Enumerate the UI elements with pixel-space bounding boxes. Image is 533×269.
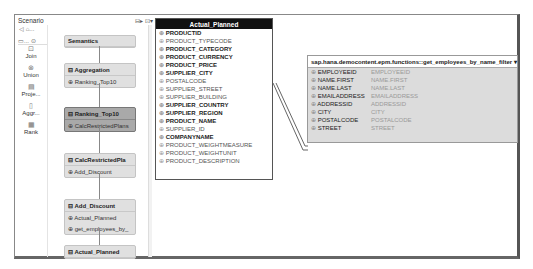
- node-4[interactable]: ⊟ Add_Discount⊕ Actual_Planned⊕ get_empl…: [64, 199, 136, 235]
- table-title: Actual_Planned: [156, 19, 272, 29]
- function-column[interactable]: POSTALCODEPOSTALCODE: [308, 116, 517, 124]
- table-column[interactable]: SUPPLIER_CITY: [156, 69, 272, 77]
- connector: [99, 228, 100, 245]
- function-column[interactable]: EMAILADDRESSEMAILADDRESS: [308, 92, 517, 100]
- node-3[interactable]: ⊟ CalcRestrictedPla⊕ Add_Discount: [64, 153, 136, 178]
- node-palette: ⊡Join⊗Union▤Proje...▯Aggr...▦Rank: [15, 45, 47, 140]
- palette-union[interactable]: ⊗Union: [15, 64, 47, 78]
- table-column[interactable]: PRODUCT_TYPECODE: [156, 37, 272, 45]
- table-column[interactable]: PRODUCT_CURRENCY: [156, 53, 272, 61]
- connector: [99, 173, 100, 199]
- node-input: ⊕ get_employees_by_: [65, 223, 135, 234]
- palette-icon: ▤: [15, 83, 47, 91]
- node-5[interactable]: ⊟ Actual_Planned: [64, 245, 136, 259]
- table-column[interactable]: SUPPLIER_STREET: [156, 85, 272, 93]
- node-input: ⊕ CalcRestrictedPlans: [65, 120, 135, 131]
- palette-aggr[interactable]: ▯Aggr...: [15, 102, 47, 116]
- node-title: ⊟ Aggregation: [65, 64, 135, 76]
- scenario-toolbar-icons[interactable]: ⊟▸ ⊡▾: [135, 17, 153, 24]
- scenario-title: Scenario: [18, 17, 44, 24]
- function-title: sap.hana.democontent.epm.functions::get_…: [308, 56, 517, 68]
- actual-planned-table[interactable]: Actual_Planned PRODUCTIDPRODUCT_TYPECODE…: [155, 18, 273, 180]
- connector: [99, 83, 100, 107]
- node-title: ⊟ Ranking_Top10: [65, 108, 135, 120]
- scenario-nav[interactable]: ◁ ⌂...: [19, 25, 34, 32]
- node-0[interactable]: Semantics: [64, 35, 136, 48]
- node-1[interactable]: ⊟ Aggregation⊕ Ranking_Top10: [64, 63, 136, 88]
- palette-rank[interactable]: ▦Rank: [15, 121, 47, 135]
- connector: [99, 127, 100, 153]
- table-column[interactable]: COMPANYNAME: [156, 133, 272, 141]
- node-title: Semantics: [65, 36, 135, 47]
- node-2[interactable]: ⊟ Ranking_Top10⊕ CalcRestrictedPlans: [64, 107, 136, 132]
- scenario-canvas[interactable]: Semantics⊟ Aggregation⊕ Ranking_Top10⊟ R…: [47, 25, 148, 257]
- node-input: ⊕ Add_Discount: [65, 166, 135, 177]
- function-column[interactable]: ADDRESSIDADDRESSID: [308, 100, 517, 108]
- table-column[interactable]: PRODUCT_PRICE: [156, 61, 272, 69]
- table-column[interactable]: PRODUCTID: [156, 29, 272, 37]
- connector: [99, 46, 100, 63]
- table-column[interactable]: PRODUCT_CATEGORY: [156, 45, 272, 53]
- palette-proje[interactable]: ▤Proje...: [15, 83, 47, 97]
- palette-header[interactable]: ▭... ⊙: [18, 37, 48, 45]
- table-column[interactable]: POSTALCODE: [156, 77, 272, 85]
- node-title: ⊟ Actual_Planned: [65, 246, 135, 258]
- function-table[interactable]: sap.hana.democontent.epm.functions::get_…: [307, 55, 518, 143]
- table-column[interactable]: PRODUCT_NAME: [156, 117, 272, 125]
- function-column[interactable]: CITYCITY: [308, 108, 517, 116]
- table-column[interactable]: PRODUCT_WEIGHTUNIT: [156, 149, 272, 157]
- table-column[interactable]: PRODUCT_WEIGHTMEASURE: [156, 141, 272, 149]
- function-column[interactable]: EMPLOYEEIDEMPLOYEEID: [308, 68, 517, 76]
- palette-join[interactable]: ⊡Join: [15, 45, 47, 59]
- palette-icon: ⊗: [15, 64, 47, 72]
- node-input: ⊕ Actual_Planned: [65, 212, 135, 223]
- node-input: ⊕ Ranking_Top10: [65, 76, 135, 87]
- table-column[interactable]: SUPPLIER_BUILDING: [156, 93, 272, 101]
- table-column[interactable]: SUPPLIER_REGION: [156, 109, 272, 117]
- palette-icon: ▯: [15, 102, 47, 110]
- function-column[interactable]: NAME.LASTNAME.LAST: [308, 84, 517, 92]
- table-column[interactable]: SUPPLIER_ID: [156, 125, 272, 133]
- join-connector: [270, 80, 310, 180]
- splitter[interactable]: [148, 25, 152, 257]
- node-title: ⊟ Add_Discount: [65, 200, 135, 212]
- node-title: ⊟ CalcRestrictedPla: [65, 154, 135, 166]
- table-column[interactable]: PRODUCT_DESCRIPTION: [156, 157, 272, 165]
- function-column[interactable]: STREETSTREET: [308, 124, 517, 132]
- table-column[interactable]: SUPPLIER_COUNTRY: [156, 101, 272, 109]
- function-column[interactable]: NAME.FIRSTNAME.FIRST: [308, 76, 517, 84]
- palette-icon: ⊡: [15, 45, 47, 53]
- palette-icon: ▦: [15, 121, 47, 129]
